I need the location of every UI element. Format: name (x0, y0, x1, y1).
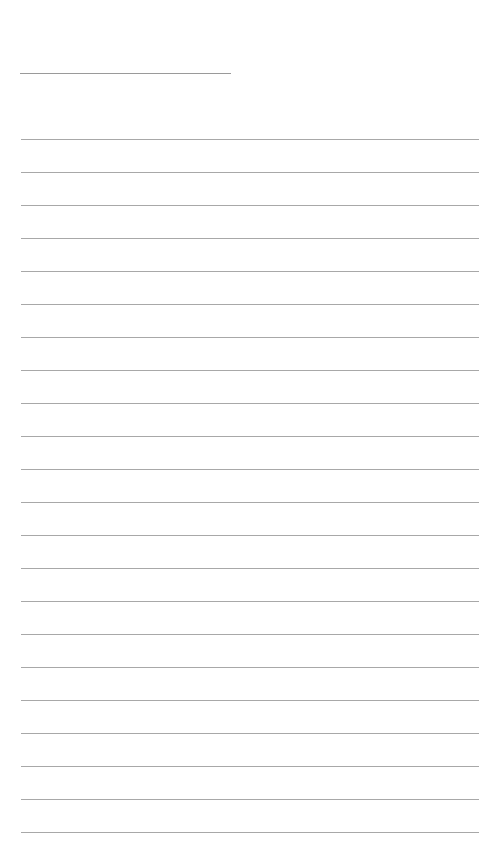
ruled-line (21, 172, 479, 173)
ruled-line (21, 535, 479, 536)
ruled-line (21, 733, 479, 734)
ruled-line (21, 700, 479, 701)
ruled-line (21, 403, 479, 404)
ruled-line (21, 766, 479, 767)
ruled-line (21, 832, 479, 833)
title-line (20, 73, 231, 74)
ruled-line (21, 667, 479, 668)
ruled-line (21, 601, 479, 602)
ruled-line (21, 469, 479, 470)
ruled-line (21, 634, 479, 635)
ruled-line (21, 337, 479, 338)
ruled-line (21, 205, 479, 206)
ruled-line (21, 436, 479, 437)
ruled-line (21, 502, 479, 503)
ruled-line (21, 271, 479, 272)
ruled-line (21, 139, 479, 140)
ruled-line (21, 304, 479, 305)
ruled-line (21, 568, 479, 569)
ruled-line (21, 799, 479, 800)
ruled-line (21, 370, 479, 371)
ruled-line (21, 238, 479, 239)
